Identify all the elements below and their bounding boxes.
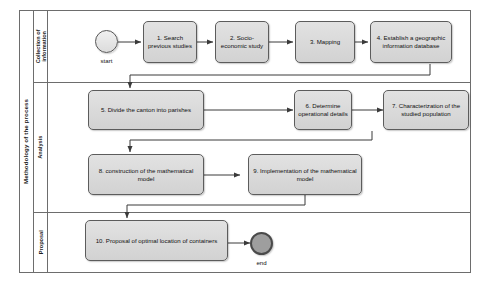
task-3-label: 3. Mapping — [310, 38, 340, 46]
bpmn-diagram: Methodology of the process Collection of… — [0, 0, 481, 287]
task-2-socio-economic-study[interactable]: 2. Socio-economic study — [215, 21, 269, 63]
lane-analysis: Analysis — [34, 82, 48, 212]
lane-label-proposal: Proposal — [37, 231, 43, 255]
task-5-divide-canton-into-parishes[interactable]: 5. Divide the canton into parishes — [88, 90, 204, 130]
task-4-establish-geographic-information-database[interactable]: 4. Establish a geographic information da… — [370, 21, 452, 63]
task-4-label: 4. Establish a geographic information da… — [374, 34, 448, 49]
task-1-label: 1. Search previous studies — [147, 34, 193, 49]
task-9-label: 9. Implementation of the mathematical mo… — [252, 167, 358, 182]
start-event[interactable] — [95, 30, 118, 53]
task-6-determine-operational-details[interactable]: 6. Determine operational details — [294, 90, 352, 130]
task-10-label: 10. Proposal of optimal location of cont… — [96, 237, 218, 245]
end-event[interactable] — [250, 232, 273, 255]
task-7-characterization-of-studied-population[interactable]: 7. Characterization of the studied popul… — [383, 90, 469, 130]
task-5-label: 5. Divide the canton into parishes — [101, 106, 191, 114]
lane-label-analysis: Analysis — [37, 135, 43, 158]
task-8-label: 8. construction of the mathematical mode… — [92, 167, 200, 182]
end-event-label: end — [240, 259, 283, 266]
task-1-search-previous-studies[interactable]: 1. Search previous studies — [143, 21, 197, 63]
lane-proposal: Proposal — [34, 212, 48, 273]
lane-collection-of-information: Collection of information — [34, 10, 48, 82]
lane-label-collection: Collection of information — [34, 29, 47, 63]
lane-separator-1 — [34, 82, 471, 83]
task-7-label: 7. Characterization of the studied popul… — [387, 102, 465, 117]
task-3-mapping[interactable]: 3. Mapping — [295, 21, 355, 63]
start-event-label: start — [85, 57, 128, 64]
pool-title: Methodology of the process — [19, 10, 34, 273]
lane-separator-2 — [34, 212, 471, 213]
task-10-proposal-of-optimal-location-of-containers[interactable]: 10. Proposal of optimal location of cont… — [85, 220, 228, 261]
pool-title-label: Methodology of the process — [23, 99, 30, 184]
task-6-label: 6. Determine operational details — [298, 102, 348, 117]
task-2-label: 2. Socio-economic study — [219, 34, 265, 49]
task-9-implementation-of-mathematical-model[interactable]: 9. Implementation of the mathematical mo… — [248, 154, 362, 195]
task-8-construction-of-mathematical-model[interactable]: 8. construction of the mathematical mode… — [88, 154, 204, 195]
